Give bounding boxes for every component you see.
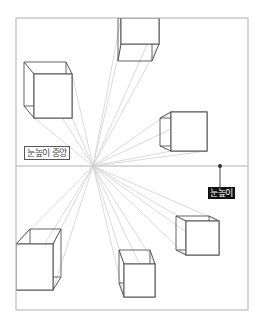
- cube-edge: [209, 216, 219, 221]
- cube-edge: [119, 250, 124, 264]
- cube-bottom-left-front-top: [16, 244, 53, 290]
- vanishing-guide-line: [93, 166, 186, 221]
- eye-level-label: 눈높이: [208, 187, 235, 199]
- vanishing-guide-line: [93, 151, 207, 166]
- cube-top-left-front-top: [34, 74, 72, 118]
- vanishing-guide-line: [93, 166, 219, 221]
- perspective-diagram: [0, 0, 264, 330]
- cube-edge: [66, 62, 72, 74]
- cube-edge: [176, 216, 186, 221]
- cube-edge: [160, 146, 171, 151]
- vanishing-guide-line: [93, 151, 171, 166]
- vanishing-guide-line: [93, 166, 155, 264]
- cube-edge: [53, 229, 61, 244]
- cube-edge: [24, 106, 34, 118]
- cube-right-middle-front-top: [171, 112, 207, 151]
- vanishing-guide-line: [72, 118, 93, 166]
- vanishing-guide-line: [53, 166, 93, 290]
- eye-level-dot: [218, 164, 222, 168]
- cube-top-center-front-top: [121, 18, 159, 44]
- cube-right-bottom-front-top: [186, 221, 219, 255]
- vanishing-guide-line: [93, 44, 121, 166]
- cube-edge: [152, 44, 159, 61]
- eye-level-center-label: 눈높이 중앙: [24, 146, 70, 160]
- cube-edge: [53, 277, 61, 290]
- cube-edge: [16, 229, 30, 244]
- cube-bottom-center-front-top: [124, 264, 155, 297]
- vanishing-guide-line: [93, 18, 121, 166]
- cube-edge: [160, 112, 171, 118]
- vanishing-guide-line: [72, 74, 93, 166]
- cube-edge: [24, 62, 34, 74]
- vanishing-guide-line: [93, 44, 159, 166]
